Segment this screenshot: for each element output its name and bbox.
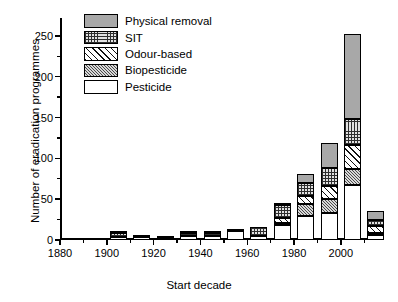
bar-segment-pesticide [63,238,80,240]
bar-segment-biopesticide [344,169,361,185]
y-tick [55,198,60,199]
y-tick [55,76,60,77]
x-tick [83,240,84,243]
y-tick [55,117,60,118]
bar-segment-pesticide [204,236,221,240]
legend-item-biopesticide: Biopesticide [84,62,212,78]
x-tick-label: 1920 [141,247,165,259]
legend-swatch [84,47,118,61]
bar-segment-physical-removal [133,235,150,237]
bar-segment-sit [367,220,384,226]
legend-label: SIT [125,32,143,44]
bar-1940 [204,233,221,240]
bar-segment-pesticide [344,185,361,241]
y-axis-line [60,18,62,240]
x-tick-label: 2000 [329,247,353,259]
bar-segment-pesticide [133,237,150,240]
bar-segment-physical-removal [110,231,127,233]
bar-2000 [344,34,361,240]
legend-swatch [84,31,118,45]
bar-1950 [227,229,244,240]
bar-segment-physical-removal [180,231,197,233]
y-tick-label: 0 [47,234,53,246]
legend-swatch [84,14,118,28]
x-tick [153,240,154,245]
bar-segment-odour-based [344,145,361,169]
legend-label: Pesticide [125,81,172,93]
y-tick [57,56,60,57]
y-tick-label: 100 [35,152,53,164]
bar-segment-odour-based [321,186,338,199]
legend-item-odour-based: Odour-based [84,46,212,62]
y-tick [57,96,60,97]
x-tick [200,240,201,245]
x-tick [270,240,271,243]
bar-segment-biopesticide [321,199,338,213]
y-tick [55,158,60,159]
bar-segment-sit [204,233,221,235]
bar-1930 [180,233,197,240]
y-tick-label: 200 [35,71,53,83]
y-tick [57,178,60,179]
legend-label: Odour-based [125,48,192,60]
legend-swatch [84,80,118,94]
chart-legend: Physical removalSITOdour-basedBiopestici… [84,13,212,95]
y-axis-title: Number of eradication programmes [29,16,41,246]
x-tick-label: 1880 [48,247,72,259]
bar-segment-sit [250,227,267,236]
bar-segment-sit [344,119,361,144]
x-tick [293,240,294,245]
bar-segment-physical-removal [297,174,314,183]
y-tick [57,219,60,220]
bar-segment-odour-based [297,196,314,204]
bar-segment-odour-based [274,218,291,223]
x-tick-label: 1960 [235,247,259,259]
x-axis-title: Start decade [0,279,398,291]
x-tick [223,240,224,243]
bar-segment-physical-removal [157,236,174,238]
bar-segment-physical-removal [367,211,384,220]
bar-segment-pesticide [227,231,244,240]
y-tick-label: 50 [41,193,53,205]
legend-label: Biopesticide [125,64,187,76]
bar-2010 [367,211,384,240]
bar-1960 [250,227,267,240]
bar-segment-pesticide [110,237,127,240]
bar-segment-pesticide [367,235,384,240]
x-tick-label: 1900 [95,247,119,259]
bar-segment-pesticide [250,236,267,240]
x-tick [247,240,248,245]
legend-swatch [84,64,118,78]
legend-label: Physical removal [125,15,212,27]
chart-figure: Number of eradication programmes Start d… [0,0,398,302]
bar-1970 [274,203,291,240]
bar-segment-sit [297,183,314,196]
legend-item-pesticide: Pesticide [84,79,212,95]
bar-1920 [157,238,174,240]
bar-1890 [87,239,104,240]
bar-segment-sit [180,233,197,235]
bar-segment-sit [274,205,291,218]
bar-segment-physical-removal [321,143,338,168]
legend-item-physical-removal: Physical removal [84,13,212,29]
x-tick [106,240,107,245]
x-tick [340,240,341,245]
bar-1880 [63,239,80,240]
bar-1910 [133,236,150,240]
bar-segment-sit [110,233,127,237]
bar-segment-pesticide [274,225,291,241]
x-tick [317,240,318,243]
bar-segment-physical-removal [204,231,221,233]
bar-segment-pesticide [321,213,338,240]
y-tick-label: 250 [35,30,53,42]
bar-segment-pesticide [180,236,197,240]
y-tick-label: 150 [35,112,53,124]
bar-1900 [110,232,127,240]
y-tick [55,35,60,36]
x-tick-label: 1980 [282,247,306,259]
x-tick [59,240,60,245]
x-tick [364,240,365,243]
legend-item-sit: SIT [84,29,212,45]
bar-1980 [297,174,314,240]
bar-segment-odour-based [367,226,384,233]
